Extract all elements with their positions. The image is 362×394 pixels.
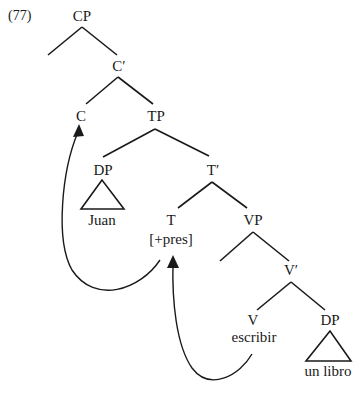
node-cp: CP [73, 9, 91, 24]
node-t-bar: T′ [207, 163, 219, 178]
branch-vp-vbar [253, 232, 289, 261]
verb-text: escribir [232, 330, 277, 345]
branch-tp-tbar [155, 129, 209, 156]
branch-cbar-tp [118, 77, 153, 104]
object-text: un libro [304, 364, 351, 379]
subject-text: Juan [88, 213, 116, 228]
branch-vp-spec [220, 232, 253, 261]
branch-vbar-dp [291, 282, 325, 310]
dp-subject-triangle [81, 180, 124, 209]
movement-arrow-v-to-t [173, 263, 252, 380]
node-tp: TP [147, 109, 165, 124]
dp-object-triangle [306, 331, 351, 361]
node-c: C [76, 109, 86, 124]
branch-cp-cbar [82, 27, 117, 55]
node-vp: VP [243, 213, 262, 228]
branch-cp-spec [48, 27, 82, 55]
node-dp-object: DP [320, 313, 339, 328]
tree-branches [0, 0, 362, 394]
node-c-bar: C′ [112, 59, 125, 74]
branch-cbar-c [86, 77, 118, 104]
node-t: T [166, 213, 175, 228]
arrowhead-icon [167, 255, 179, 268]
t-feature: [+pres] [149, 232, 192, 247]
branch-vbar-v [257, 282, 291, 310]
branch-tp-dp [103, 129, 155, 157]
node-dp-subject: DP [93, 163, 112, 178]
syntax-tree: (77) CP C′ C TP DP Juan T′ T [+pres] VP … [0, 0, 362, 394]
node-v-bar: V′ [284, 263, 298, 278]
arrowhead-icon [73, 124, 84, 137]
branch-tbar-t [178, 182, 212, 208]
node-v: V [248, 313, 259, 328]
example-number: (77) [8, 9, 31, 23]
branch-tbar-vp [212, 182, 247, 208]
